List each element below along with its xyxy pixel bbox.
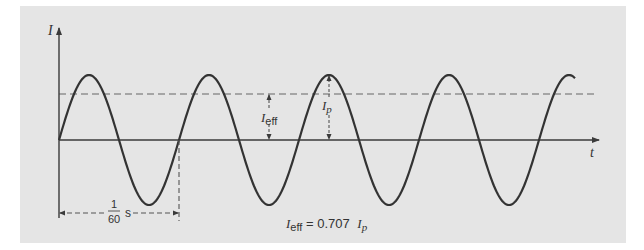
x-axis-label: t xyxy=(590,145,595,160)
peak-label: Ip xyxy=(321,98,332,115)
effective-label: Ieff xyxy=(260,110,278,127)
period-denominator: 60 xyxy=(108,213,120,225)
equation: Ieff = 0.707 Ip xyxy=(285,216,368,233)
period-unit: s xyxy=(125,206,131,220)
period-numerator: 1 xyxy=(111,198,117,210)
ac-waveform-diagram: 1 60 s Ieff Ip I t Ieff = 0.707 Ip xyxy=(0,0,644,250)
y-axis-label: I xyxy=(47,23,54,38)
